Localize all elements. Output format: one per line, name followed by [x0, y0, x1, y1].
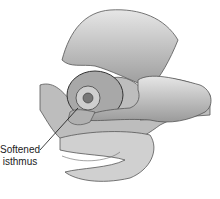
cervix [83, 93, 93, 103]
pelvic-exam-illustration [0, 0, 220, 199]
annotation-label-line1: Softened [0, 144, 40, 156]
annotation-label-line2: isthmus [0, 156, 40, 168]
rectum [60, 132, 154, 182]
